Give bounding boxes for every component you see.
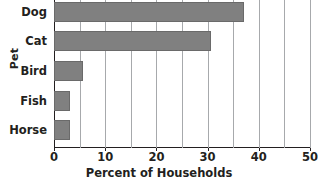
bar — [54, 120, 70, 140]
gridline — [208, 0, 209, 148]
x-axis-tick-label: 0 — [50, 150, 58, 164]
gridline — [156, 0, 157, 148]
gridline — [259, 0, 260, 148]
x-axis-title: Percent of Households — [0, 166, 318, 180]
x-axis-tick-mark — [208, 148, 209, 151]
y-axis-tick-label: Fish — [20, 91, 47, 111]
x-axis-tick-mark — [310, 148, 311, 151]
gridline — [182, 0, 183, 148]
gridline — [131, 0, 132, 148]
y-axis-tick-labels: DogCatBirdFishHorse — [0, 0, 50, 148]
bar — [54, 31, 211, 51]
y-axis-tick-label: Bird — [20, 61, 47, 81]
x-axis-tick-mark — [105, 148, 106, 151]
x-axis-tick-mark — [156, 148, 157, 151]
gridline — [105, 0, 106, 148]
x-axis-tick-label: 30 — [200, 150, 216, 164]
bar — [54, 61, 83, 81]
plot-area — [54, 0, 310, 148]
x-axis-tick-label: 40 — [251, 150, 267, 164]
bar — [54, 2, 244, 22]
x-axis-tick-mark — [54, 148, 55, 151]
bar-chart: Pet DogCatBirdFishHorse 01020304050 Perc… — [0, 0, 318, 184]
x-axis-tick-label: 50 — [302, 150, 318, 164]
gridline — [310, 0, 311, 148]
gridline — [233, 0, 234, 148]
gridline — [284, 0, 285, 148]
y-axis-tick-label: Dog — [21, 2, 47, 22]
y-axis-tick-label: Cat — [25, 31, 47, 51]
x-axis-tick-label: 10 — [97, 150, 113, 164]
x-axis-tick-labels: 01020304050 — [54, 150, 310, 166]
x-axis-tick-label: 20 — [148, 150, 164, 164]
y-axis-tick-label: Horse — [9, 120, 47, 140]
x-axis-tick-mark — [259, 148, 260, 151]
bar — [54, 91, 70, 111]
